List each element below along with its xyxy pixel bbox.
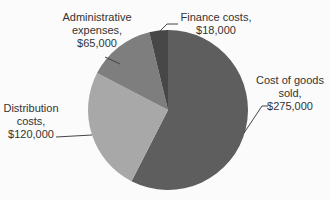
label-dist-line3: $120,000 <box>0 128 62 141</box>
label-cogs-line3: $275,000 <box>248 100 330 113</box>
label-admin-line3: $65,000 <box>52 37 142 50</box>
label-admin: Administrative expenses, $65,000 <box>52 11 142 50</box>
label-admin-line2: expenses, <box>52 24 142 37</box>
label-fin-line1: Finance costs, <box>176 11 256 24</box>
label-fin: Finance costs, $18,000 <box>176 11 256 37</box>
label-dist-line1: Distribution <box>0 102 62 115</box>
label-dist-line2: costs, <box>0 115 62 128</box>
label-fin-line2: $18,000 <box>176 24 256 37</box>
label-admin-line1: Administrative <box>52 11 142 24</box>
label-cogs-line1: Cost of goods <box>248 74 330 87</box>
label-cogs-line2: sold, <box>248 87 330 100</box>
label-dist: Distribution costs, $120,000 <box>0 102 62 141</box>
label-cogs: Cost of goods sold, $275,000 <box>248 74 330 113</box>
